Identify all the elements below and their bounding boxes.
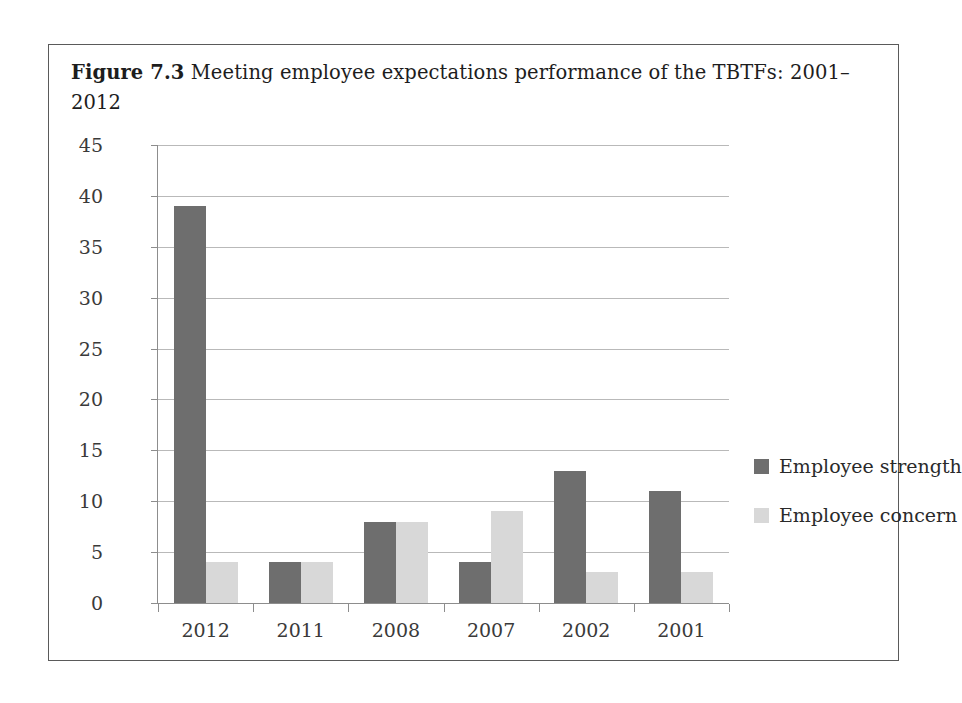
y-tick-label: 5 [57, 541, 103, 563]
y-tick-mark [151, 349, 158, 350]
y-tick-label: 0 [57, 592, 103, 614]
figure-caption: Figure 7.3 Meeting employee expectations… [71, 58, 861, 118]
y-tick-label: 20 [57, 388, 103, 410]
y-tick-mark [151, 247, 158, 248]
bar-2008-series-1 [396, 522, 428, 603]
figure-caption-text: Meeting employee expectations performanc… [71, 61, 850, 114]
bars-layer [158, 145, 729, 603]
legend-label: Employee concern [779, 504, 957, 526]
y-tick-label: 35 [57, 236, 103, 258]
x-tick-mark [634, 604, 635, 612]
figure-frame: Figure 7.3 Meeting employee expectations… [48, 44, 899, 661]
legend-item-0: Employee strength [754, 455, 954, 477]
y-tick-mark [151, 298, 158, 299]
legend-swatch-icon [754, 459, 769, 474]
chart-plot-area: 051015202530354045 201220112008200720022… [109, 145, 739, 603]
y-tick-mark [151, 399, 158, 400]
x-tick-label-2011: 2011 [277, 619, 325, 641]
y-tick-label: 30 [57, 287, 103, 309]
x-tick-mark [444, 604, 445, 612]
bar-2001-series-1 [681, 572, 713, 603]
x-tick-mark [158, 604, 159, 612]
bar-2002-series-0 [554, 471, 586, 603]
bar-2007-series-1 [491, 511, 523, 603]
legend-swatch-icon [754, 508, 769, 523]
legend-item-1: Employee concern [754, 504, 954, 526]
y-tick-label: 15 [57, 439, 103, 461]
x-tick-mark [253, 604, 254, 612]
bar-2002-series-1 [586, 572, 618, 603]
legend-label: Employee strength [779, 455, 962, 477]
bar-2012-series-0 [174, 206, 206, 603]
x-tick-label-2012: 2012 [181, 619, 229, 641]
bar-2012-series-1 [206, 562, 238, 603]
x-tick-mark [729, 604, 730, 612]
x-tick-label-2008: 2008 [372, 619, 420, 641]
y-tick-mark [151, 450, 158, 451]
y-tick-label: 45 [57, 134, 103, 156]
bar-2007-series-0 [459, 562, 491, 603]
y-tick-mark [151, 552, 158, 553]
y-tick-label: 40 [57, 185, 103, 207]
bar-2011-series-0 [269, 562, 301, 603]
bar-2008-series-0 [364, 522, 396, 603]
y-tick-label: 10 [57, 490, 103, 512]
y-tick-mark [151, 145, 158, 146]
x-tick-label-2001: 2001 [657, 619, 705, 641]
x-tick-label-2007: 2007 [467, 619, 515, 641]
y-tick-mark [151, 603, 158, 604]
figure-caption-label: Figure 7.3 [71, 61, 184, 84]
x-tick-label-2002: 2002 [562, 619, 610, 641]
x-tick-mark [348, 604, 349, 612]
bar-2001-series-0 [649, 491, 681, 603]
bar-2011-series-1 [301, 562, 333, 603]
y-tick-label: 25 [57, 338, 103, 360]
x-tick-mark [539, 604, 540, 612]
chart-legend: Employee strengthEmployee concern [754, 455, 954, 553]
y-tick-mark [151, 501, 158, 502]
y-tick-mark [151, 196, 158, 197]
